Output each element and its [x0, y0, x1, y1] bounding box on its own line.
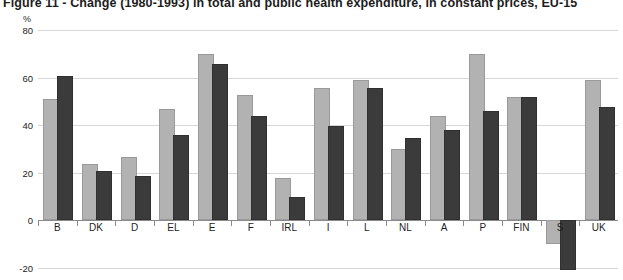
- y-axis-ticks: 806040200-20: [0, 30, 33, 268]
- bar-D-s2: [135, 176, 151, 221]
- y-tick-label: 40: [22, 120, 33, 131]
- x-label-L: L: [347, 222, 386, 240]
- bar-UK-s2: [599, 107, 615, 221]
- bar-L-s2: [367, 88, 383, 221]
- bar-FIN-s2: [521, 97, 537, 220]
- chart-figure: Figure 11 - Change (1980-1993) in total …: [0, 0, 623, 280]
- x-label-IRL: IRL: [270, 222, 309, 240]
- gridline--20: [38, 268, 618, 269]
- bar-NL-s2: [405, 138, 421, 221]
- x-label-B: B: [38, 222, 77, 240]
- x-label-EL: EL: [154, 222, 193, 240]
- x-label-E: E: [193, 222, 232, 240]
- y-tick-label: 60: [22, 72, 33, 83]
- chart-title: Figure 11 - Change (1980-1993) in total …: [3, 0, 577, 10]
- bar-P-s2: [483, 111, 499, 220]
- x-label-DK: DK: [77, 222, 116, 240]
- x-label-I: I: [309, 222, 348, 240]
- x-label-F: F: [231, 222, 270, 240]
- x-axis-labels: BDKDELEFIRLILNLAPFINSUK: [38, 222, 618, 240]
- bar-DK-s2: [96, 171, 112, 221]
- y-tick-label: 0: [28, 215, 33, 226]
- x-label-A: A: [425, 222, 464, 240]
- bar-I-s2: [328, 126, 344, 221]
- bar-B-s2: [57, 76, 73, 221]
- x-label-FIN: FIN: [502, 222, 541, 240]
- bar-F-s2: [251, 116, 267, 220]
- x-label-NL: NL: [386, 222, 425, 240]
- bar-IRL-s2: [289, 197, 305, 220]
- y-axis-unit-label: %: [23, 14, 31, 24]
- bar-EL-s2: [173, 135, 189, 220]
- bar-A-s2: [444, 130, 460, 220]
- x-label-D: D: [115, 222, 154, 240]
- y-tick-label: -20: [19, 263, 33, 274]
- bar-E-s2: [212, 64, 228, 221]
- y-tick-label: 20: [22, 167, 33, 178]
- x-label-S: S: [541, 222, 580, 240]
- x-label-UK: UK: [579, 222, 618, 240]
- y-tick-label: 80: [22, 25, 33, 36]
- x-label-P: P: [463, 222, 502, 240]
